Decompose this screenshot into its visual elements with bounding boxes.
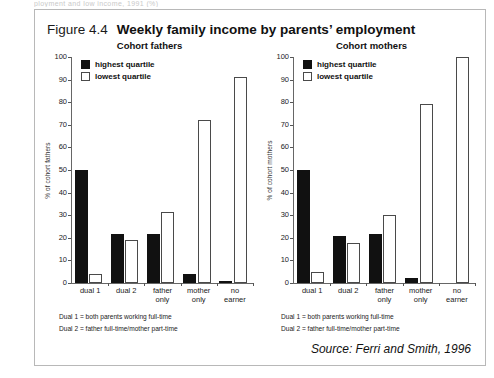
y-axis-tick-80: 80 — [41, 97, 67, 106]
legend-label-lowest: lowest quartile — [317, 72, 373, 81]
bar-lowest-no-earner — [234, 77, 247, 283]
y-axis-tick-20: 20 — [41, 233, 67, 242]
y-tick-mark — [290, 125, 293, 126]
y-tick-mark — [68, 283, 71, 284]
y-axis-tick-60: 60 — [41, 142, 67, 151]
bar-lowest-father-only — [161, 212, 174, 283]
x-axis-label-dual-1: dual 1 — [70, 287, 110, 296]
y-axis-tick-90: 90 — [41, 75, 67, 84]
x-axis-line — [293, 283, 475, 284]
chart-title-fathers: Cohort fathers — [37, 40, 262, 51]
page-title: Weekly family income by parents’ employm… — [117, 22, 415, 37]
source-citation: Source: Ferri and Smith, 1996 — [311, 342, 471, 356]
y-axis-tick-80: 80 — [263, 97, 289, 106]
y-axis-tick-90: 90 — [263, 75, 289, 84]
x-axis-label-father-only: fatheronly — [143, 287, 183, 304]
legend-swatch-lowest-icon — [81, 72, 90, 81]
bar-highest-father-only — [369, 234, 382, 283]
x-tick-mark — [475, 283, 476, 286]
x-tick-mark — [439, 283, 440, 286]
bar-highest-mother-only — [183, 274, 196, 283]
y-axis-tick-70: 70 — [41, 120, 67, 129]
y-axis-tick-70: 70 — [263, 120, 289, 129]
bar-highest-father-only — [147, 234, 160, 283]
y-tick-mark — [68, 147, 71, 148]
bar-lowest-dual-1 — [89, 274, 102, 283]
chart-panel-cohort-mothers: Cohort mothers % of cohort mothers highe… — [259, 40, 484, 365]
y-axis-tick-30: 30 — [263, 210, 289, 219]
y-axis-tick-40: 40 — [263, 188, 289, 197]
y-axis-tick-10: 10 — [263, 255, 289, 264]
bar-lowest-dual-1 — [311, 272, 324, 283]
chart-title-mothers: Cohort mothers — [259, 40, 484, 51]
y-axis-tick-60: 60 — [263, 142, 289, 151]
legend-swatch-lowest-icon — [303, 72, 312, 81]
y-axis-tick-40: 40 — [41, 188, 67, 197]
legend-item-highest: highest quartile — [303, 59, 377, 70]
bar-lowest-dual-2 — [125, 240, 138, 283]
bar-lowest-no-earner — [456, 57, 469, 283]
x-axis-label-no-earner: noearner — [215, 287, 255, 304]
y-tick-mark — [68, 215, 71, 216]
note-dual2: Dual 2 = father full-time/mother part-ti… — [59, 325, 264, 332]
y-tick-mark — [290, 215, 293, 216]
y-axis-tick-50: 50 — [263, 165, 289, 174]
bar-group — [145, 57, 181, 283]
bar-group — [367, 57, 403, 283]
x-tick-mark — [253, 283, 254, 286]
figure-box: Figure 4.4Weekly family income by parent… — [34, 9, 486, 366]
y-tick-mark — [68, 102, 71, 103]
bar-highest-no-earner — [219, 281, 232, 283]
y-tick-mark — [68, 125, 71, 126]
legend-fathers: highest quartile lowest quartile — [81, 59, 155, 83]
bar-group — [439, 57, 475, 283]
plot-area-fathers: % of cohort fathers highest quartile low… — [37, 57, 262, 297]
bar-group — [295, 57, 331, 283]
y-axis-tick-100: 100 — [41, 52, 67, 61]
y-tick-mark — [290, 102, 293, 103]
x-axis-label-no-earner: noearner — [437, 287, 477, 304]
bars-group-fathers — [72, 57, 253, 283]
y-tick-mark — [290, 57, 293, 58]
bar-group — [331, 57, 367, 283]
legend-mothers: highest quartile lowest quartile — [303, 59, 377, 83]
y-tick-mark — [68, 260, 71, 261]
bar-group — [403, 57, 439, 283]
bar-highest-dual-2 — [111, 234, 124, 283]
legend-swatch-highest-icon — [303, 60, 312, 69]
y-axis-tick-50: 50 — [41, 165, 67, 174]
bar-highest-dual-1 — [297, 170, 310, 283]
x-tick-mark — [144, 283, 145, 286]
x-axis-line — [71, 283, 253, 284]
bar-lowest-mother-only — [420, 104, 433, 283]
x-tick-mark — [366, 283, 367, 286]
y-axis-tick-0: 0 — [41, 278, 67, 287]
bar-group — [217, 57, 253, 283]
note-dual1: Dual 1 = both parents working full-time — [59, 313, 264, 320]
x-tick-mark — [330, 283, 331, 286]
y-axis-tick-100: 100 — [263, 52, 289, 61]
chart-panel-cohort-fathers: Cohort fathers % of cohort fathers highe… — [37, 40, 262, 365]
legend-item-lowest: lowest quartile — [303, 71, 377, 82]
bar-highest-mother-only — [405, 278, 418, 283]
x-axis-label-dual-2: dual 2 — [106, 287, 146, 296]
bar-group — [73, 57, 109, 283]
bar-highest-dual-2 — [333, 236, 346, 283]
x-axis-label-dual-2: dual 2 — [328, 287, 368, 296]
legend-label-highest: highest quartile — [95, 60, 155, 69]
notes-mothers: Dual 1 = both parents working full-time … — [281, 313, 486, 337]
y-tick-mark — [290, 80, 293, 81]
legend-swatch-highest-icon — [81, 60, 90, 69]
legend-item-highest: highest quartile — [81, 59, 155, 70]
x-tick-mark — [217, 283, 218, 286]
legend-label-lowest: lowest quartile — [95, 72, 151, 81]
y-tick-mark — [290, 238, 293, 239]
x-axis-label-mother-only: motheronly — [401, 287, 441, 304]
plot-area-mothers: % of cohort mothers highest quartile low… — [259, 57, 484, 297]
x-tick-mark — [108, 283, 109, 286]
bar-lowest-dual-2 — [347, 243, 360, 283]
y-tick-mark — [290, 260, 293, 261]
y-tick-mark — [290, 283, 293, 284]
legend-label-highest: highest quartile — [317, 60, 377, 69]
y-axis-tick-20: 20 — [263, 233, 289, 242]
